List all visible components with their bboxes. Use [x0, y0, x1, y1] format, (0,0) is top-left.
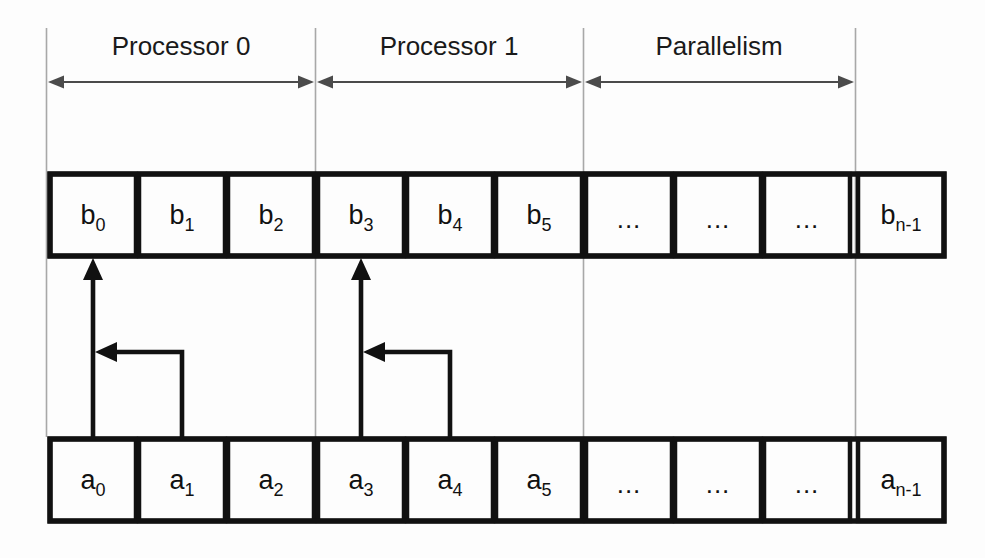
output-row: b0 b1 b2 b3 b4 b5 ... ... ... bn-1	[50, 174, 944, 256]
block-partition-diagram: Processor 0 Processor 1 Parallelism	[0, 0, 985, 558]
cell-text-a7: ...	[706, 469, 731, 499]
diagram-canvas: Processor 0 Processor 1 Parallelism	[0, 0, 985, 558]
cell-text-a6: ...	[617, 469, 642, 499]
dimension-arrow-processor-1	[317, 76, 582, 89]
cell-text-b7: ...	[706, 204, 731, 234]
dimension-arrow-parallelism	[585, 76, 854, 89]
arrowhead-up-b3	[351, 258, 371, 280]
region-label-processor-0: Processor 0	[112, 31, 251, 61]
region-label-processor-1: Processor 1	[380, 31, 519, 61]
arrowhead-left-group-0	[95, 342, 117, 362]
input-row: a0 a1 a2 a3 a4 a5 ... ... ... an-1	[50, 439, 944, 521]
dimension-arrow-processor-0	[48, 76, 314, 89]
region-label-parallelism: Parallelism	[655, 31, 782, 61]
arrowhead-left-group-1	[363, 342, 385, 362]
dependency-arrow-group-1	[351, 258, 450, 439]
cell-text-a8: ...	[795, 469, 820, 499]
arrowhead-up-b0	[83, 258, 103, 280]
cell-text-b8: ...	[795, 204, 820, 234]
dependency-arrow-group-0	[83, 258, 182, 439]
cell-text-b6: ...	[617, 204, 642, 234]
